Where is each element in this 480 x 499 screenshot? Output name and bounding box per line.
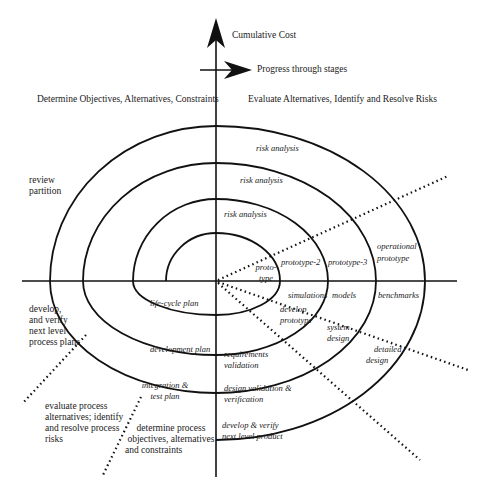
text-line: determine process	[123, 423, 219, 434]
detailed-design-label: detailed design	[366, 344, 401, 366]
text-line: detailed	[374, 344, 401, 355]
text-line: verification	[224, 394, 292, 405]
text-line: process plans	[29, 337, 80, 348]
simulations-label: simulations	[288, 290, 327, 301]
determine-process-label: determine process objectives, alternativ…	[123, 423, 219, 456]
text-line: design	[327, 333, 350, 344]
text-line: type	[252, 273, 280, 284]
quadrant-top-left-label: Determine Objectives, Alternatives, Cons…	[37, 94, 219, 105]
develop-prototype-label: develop prototype	[280, 304, 312, 326]
system-design-label: system design	[327, 322, 350, 344]
models-label: models	[332, 290, 356, 301]
text-line: next level product	[222, 431, 283, 442]
risk-analysis-outer: risk analysis	[256, 143, 299, 154]
review-partition-label: review partition	[29, 175, 61, 197]
text-line: and resolve process	[45, 423, 123, 434]
development-plan-label: development plan	[150, 344, 210, 355]
text-line: develop,	[29, 304, 80, 315]
text-line: prototype	[377, 253, 417, 264]
text-line: operational	[377, 241, 417, 252]
text-line: design	[366, 355, 401, 366]
review-line: review	[29, 175, 61, 186]
develop-verify-product-label: develop & verify next level product	[222, 420, 283, 442]
develop-process-plans-label: develop, and verify next level process p…	[29, 304, 80, 348]
integration-test-plan-label: integration & test plan	[132, 380, 198, 402]
text-line: system	[327, 322, 350, 333]
text-line: test plan	[132, 391, 198, 402]
prototype-3-label: prototype-3	[328, 257, 367, 268]
evaluate-process-label: evaluate process alternatives; identify …	[45, 401, 123, 445]
prototype-2-label: prototype-2	[281, 257, 320, 268]
text-line: evaluate process	[45, 401, 123, 412]
text-line: risks	[45, 434, 123, 445]
text-line: proto-	[252, 262, 280, 273]
benchmarks-label: benchmarks	[378, 290, 419, 301]
risk-analysis-inner: risk analysis	[224, 209, 267, 220]
requirements-validation-label: requirements validation	[224, 349, 268, 371]
progress-label: Progress through stages	[257, 64, 347, 75]
text-line: integration &	[132, 380, 198, 391]
text-line: and constraints	[125, 445, 219, 456]
text-line: prototype	[280, 315, 312, 326]
life-cycle-plan-label: life-cycle plan	[150, 298, 198, 309]
risk-analysis-middle: risk analysis	[240, 175, 283, 186]
quadrant-top-right-label: Evaluate Alternatives, Identify and Reso…	[248, 94, 437, 105]
text-line: develop	[280, 304, 312, 315]
text-line: design validation &	[224, 383, 292, 394]
text-line: requirements	[224, 349, 268, 360]
prototype-1-label: proto- type	[252, 262, 280, 284]
text-line: next level	[29, 326, 80, 337]
text-line: alternatives; identify	[45, 412, 123, 423]
text-line: develop & verify	[222, 420, 283, 431]
text-line: validation	[224, 360, 268, 371]
text-line: objectives, alternatives	[123, 434, 219, 445]
text-line: and verify	[29, 315, 80, 326]
design-validation-label: design validation & verification	[224, 383, 292, 405]
cumulative-cost-label: Cumulative Cost	[232, 30, 296, 41]
partition-line: partition	[29, 186, 61, 197]
operational-prototype-label: operational prototype	[377, 241, 417, 264]
